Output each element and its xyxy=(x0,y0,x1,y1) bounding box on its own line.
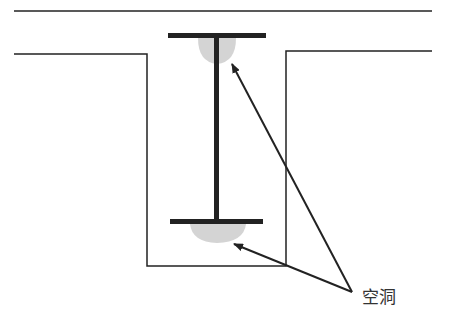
diagram-canvas xyxy=(0,0,450,324)
arrow-to-upper-void xyxy=(232,64,352,292)
arrow-to-lower-void xyxy=(234,244,352,292)
beam-bottom-flange xyxy=(170,219,263,224)
lower-void xyxy=(190,224,246,243)
void-label: 空洞 xyxy=(362,283,396,308)
beam-web xyxy=(214,35,219,223)
